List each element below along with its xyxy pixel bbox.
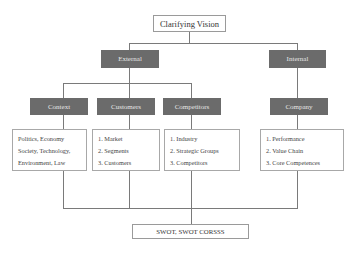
- list-item: 1. Performance: [266, 133, 343, 145]
- company-box: Company: [270, 98, 328, 115]
- connector: [129, 171, 130, 208]
- connector: [129, 43, 130, 50]
- list-item: 3. Competitors: [170, 157, 239, 169]
- clarifying-vision-box: Clarifying Vision: [153, 15, 226, 32]
- connector: [63, 83, 64, 98]
- connector: [189, 32, 190, 43]
- competitors-box: Competitors: [163, 98, 221, 115]
- external-box: External: [101, 50, 159, 68]
- connector: [63, 171, 64, 208]
- connector: [63, 208, 298, 209]
- customers-details: 1. Market 2. Segments 3. Customers: [92, 129, 160, 171]
- list-item: 2. Segments: [98, 145, 159, 157]
- list-item: 2. Value Chain: [266, 145, 343, 157]
- connector: [63, 115, 64, 129]
- list-item: 1. Industry: [170, 133, 239, 145]
- competitors-details: 1. Industry 2. Strategic Groups 3. Compe…: [164, 129, 240, 171]
- connector: [297, 171, 298, 208]
- list-item: 3. Customers: [98, 157, 159, 169]
- customers-box: Customers: [97, 98, 155, 115]
- connector: [129, 115, 130, 129]
- list-item: Politics, Economy: [18, 133, 86, 145]
- context-details: Politics, Economy Society, Technology, E…: [12, 129, 87, 171]
- list-item: 2. Strategic Groups: [170, 145, 239, 157]
- connector: [63, 83, 191, 84]
- connector: [129, 68, 130, 83]
- list-item: 3. Core Competences: [266, 157, 343, 169]
- swot-box: SWOT, SWOT CORSSS: [132, 224, 249, 239]
- connector: [297, 115, 298, 129]
- connector: [129, 83, 130, 98]
- connector: [297, 43, 298, 50]
- connector: [191, 115, 192, 129]
- list-item: Environment, Law: [18, 157, 86, 169]
- context-box: Context: [30, 98, 88, 115]
- list-item: Society, Technology,: [18, 145, 86, 157]
- internal-box: Internal: [269, 50, 326, 68]
- connector: [129, 43, 297, 44]
- connector: [297, 68, 298, 98]
- list-item: 1. Market: [98, 133, 159, 145]
- connector: [191, 171, 192, 224]
- connector: [191, 83, 192, 98]
- company-details: 1. Performance 2. Value Chain 3. Core Co…: [260, 129, 344, 171]
